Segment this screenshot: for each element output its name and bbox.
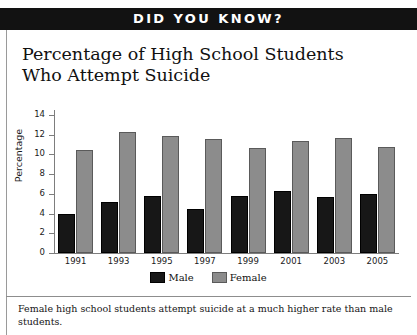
bar-group [360, 115, 395, 253]
bar-male [58, 214, 75, 253]
y-axis-tick-label: 12 [15, 129, 45, 139]
page-title: Percentage of High School Students Who A… [22, 44, 382, 86]
y-axis-tick-label: 4 [15, 208, 45, 218]
bar-female [162, 136, 179, 253]
y-axis-tick-label: 8 [15, 168, 45, 178]
bar-group [187, 115, 222, 253]
x-axis-tick-label: 1997 [182, 256, 228, 266]
bar-group [58, 115, 93, 253]
card-left-border [6, 30, 7, 335]
y-axis-tick-label: 0 [15, 247, 45, 257]
x-axis-tick-label: 1995 [139, 256, 185, 266]
bar-group [231, 115, 266, 253]
banner-title: DID YOU KNOW? [0, 8, 417, 30]
y-axis-tick [49, 253, 54, 254]
caption-divider [6, 296, 411, 297]
y-axis-tick-label: 10 [15, 148, 45, 158]
did-you-know-card: DID YOU KNOW? Percentage of High School … [0, 0, 417, 335]
bar-group [144, 115, 179, 253]
chart-legend: Male Female [0, 272, 417, 283]
y-axis-tick [49, 135, 54, 136]
legend-label-male: Male [168, 272, 193, 283]
bar-female [205, 139, 222, 253]
bar-male [360, 194, 377, 253]
bar-female [335, 138, 352, 253]
bar-female [378, 147, 395, 253]
bar-male [144, 196, 161, 253]
bar-female [76, 150, 93, 254]
bar-female [119, 132, 136, 253]
x-axis-tick-label: 1991 [53, 256, 99, 266]
y-axis-tick [49, 115, 54, 116]
x-axis-tick-label: 2005 [354, 256, 400, 266]
bar-female [249, 148, 266, 253]
y-axis-tick-label: 14 [15, 109, 45, 119]
x-axis-tick-label: 2001 [268, 256, 314, 266]
x-axis-tick-label: 1993 [96, 256, 142, 266]
y-axis-tick [49, 214, 54, 215]
x-axis-tick-label: 1999 [225, 256, 271, 266]
legend-item-female: Female [212, 272, 267, 283]
did-you-know-banner: DID YOU KNOW? [0, 8, 417, 30]
male-swatch-icon [150, 272, 165, 283]
bar-male [317, 197, 334, 253]
bar-group [274, 115, 309, 253]
y-axis-tick-label: 6 [15, 188, 45, 198]
bar-male [187, 209, 204, 253]
y-axis-line [54, 110, 55, 254]
bar-male [101, 202, 118, 253]
female-swatch-icon [212, 272, 227, 283]
y-axis-tick [49, 174, 54, 175]
y-axis-tick [49, 233, 54, 234]
chart-caption: Female high school students attempt suic… [18, 302, 403, 328]
bar-group [317, 115, 352, 253]
legend-item-male: Male [150, 272, 193, 283]
y-axis-tick-label: 2 [15, 227, 45, 237]
y-axis-tick [49, 154, 54, 155]
x-axis-tick-label: 2003 [311, 256, 357, 266]
y-axis-tick [49, 194, 54, 195]
bar-male [231, 196, 248, 253]
bar-group [101, 115, 136, 253]
bar-male [274, 191, 291, 253]
legend-label-female: Female [230, 272, 267, 283]
x-axis-line [54, 253, 399, 254]
bar-female [292, 141, 309, 253]
